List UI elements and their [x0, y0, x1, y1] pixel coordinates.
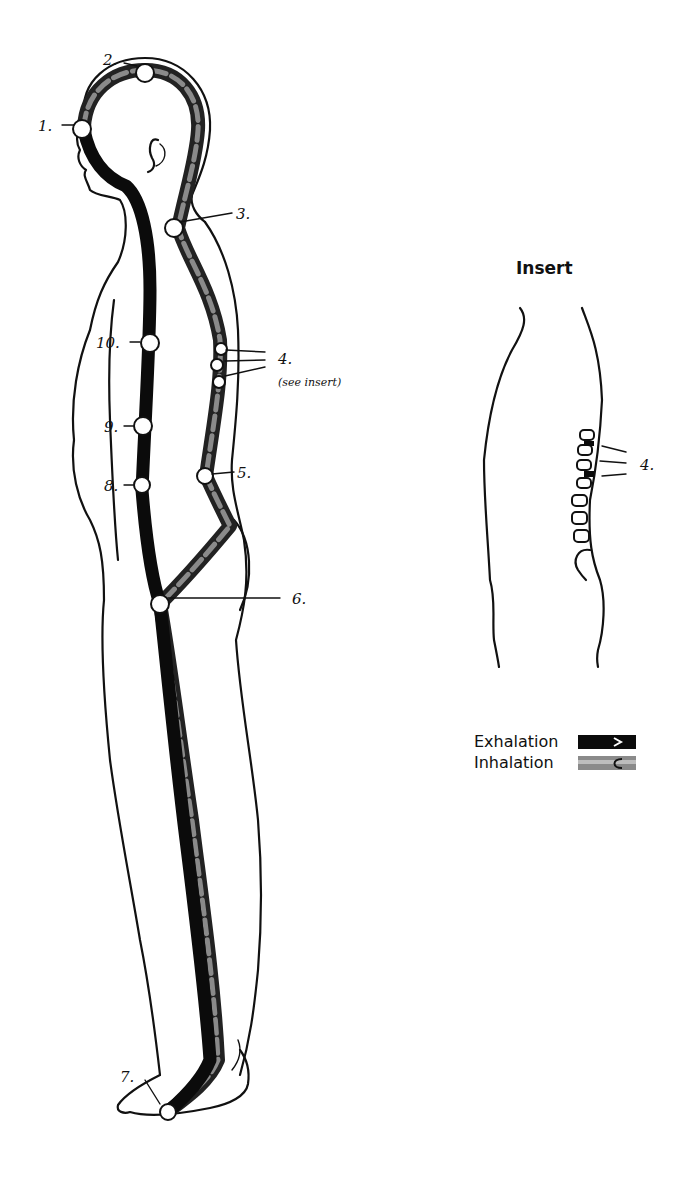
exhalation-swatch — [578, 735, 636, 749]
point-6 — [151, 595, 169, 613]
body-outline — [73, 58, 261, 1115]
point-10 — [141, 334, 159, 352]
label-7: 7. — [120, 1068, 134, 1086]
breathing-pathway-diagram: 1. 2. 3. 4. (see insert) 5. 6. 7. 8. 9. … — [0, 0, 693, 1186]
point-4b — [211, 359, 223, 371]
insert-title: Insert — [516, 258, 573, 278]
point-9 — [134, 417, 152, 435]
point-8 — [134, 477, 150, 493]
label-8: 8. — [104, 477, 118, 495]
label-3: 3. — [236, 205, 250, 223]
label-1: 1. — [38, 117, 52, 135]
point-4c — [213, 376, 225, 388]
label-2: 2. — [102, 51, 117, 69]
label-9: 9. — [104, 418, 118, 436]
insert-panel: Insert 4. — [484, 258, 654, 667]
label-4-note: (see insert) — [278, 376, 341, 389]
point-7 — [160, 1104, 176, 1120]
point-4a — [215, 343, 227, 355]
point-5 — [197, 468, 213, 484]
legend-exhalation-label: Exhalation — [474, 732, 558, 751]
label-4: 4. — [277, 350, 292, 368]
legend-inhalation-label: Inhalation — [474, 753, 554, 772]
point-2 — [136, 64, 154, 82]
insert-label-4: 4. — [639, 456, 654, 474]
label-6: 6. — [292, 590, 306, 608]
point-1 — [73, 120, 91, 138]
label-5: 5. — [237, 464, 251, 482]
label-10: 10. — [96, 334, 120, 352]
legend: Exhalation Inhalation — [474, 732, 636, 772]
